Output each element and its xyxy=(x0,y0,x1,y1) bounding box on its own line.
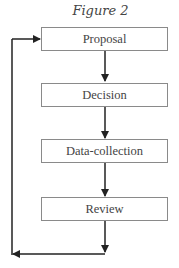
step-label: Decision xyxy=(82,88,126,103)
step-review: Review xyxy=(41,197,168,221)
step-data-collection: Data-collection xyxy=(41,139,168,163)
step-label: Review xyxy=(85,202,123,217)
step-label: Data-collection xyxy=(66,144,143,159)
step-decision: Decision xyxy=(41,83,168,107)
step-label: Proposal xyxy=(83,32,127,47)
step-proposal: Proposal xyxy=(41,27,168,51)
